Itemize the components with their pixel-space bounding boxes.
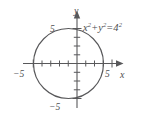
y-axis-tick-label-5: 5	[50, 25, 55, 35]
x-axis	[23, 60, 124, 68]
circle-graph-figure: 5 −5 −5 5 x y x2+y2=42	[0, 0, 149, 120]
y-axis-name-label: y	[74, 6, 78, 16]
y-axis-tick-label-neg5: −5	[49, 103, 60, 113]
coordinate-plane-svg	[0, 0, 149, 120]
x-axis-arrowhead-icon	[116, 60, 124, 66]
y-axis	[73, 11, 82, 109]
equation-annotation: x2+y2=42	[83, 23, 122, 34]
x-axis-name-label: x	[120, 70, 124, 80]
x-axis-tick-label-neg5: −5	[13, 70, 24, 80]
equation-rhs-exponent: 2	[119, 21, 122, 28]
x-axis-tick-label-5: 5	[105, 70, 110, 80]
